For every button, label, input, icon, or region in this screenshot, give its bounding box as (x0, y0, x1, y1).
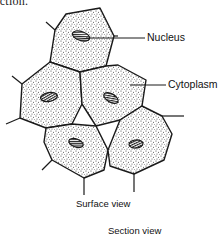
cell-bottom-left (44, 124, 108, 178)
nucleus-label: Nucleus (147, 31, 185, 43)
cytoplasm-label: Cytoplasm (168, 78, 218, 90)
section-view-caption: Section view (108, 225, 161, 236)
surface-view-caption: Surface view (76, 198, 130, 209)
